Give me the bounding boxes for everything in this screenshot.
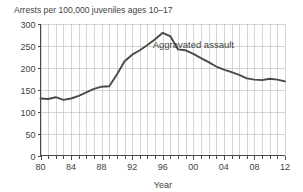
- x-tick-label: 92: [127, 162, 137, 172]
- chart-title: Arrests per 100,000 juveniles ages 10–17: [14, 5, 173, 15]
- x-tick-label: 88: [97, 162, 107, 172]
- x-tick-label: 08: [249, 162, 259, 172]
- x-tick-label: 84: [66, 162, 76, 172]
- x-axis-label: Year: [154, 180, 172, 190]
- x-tick-label: 96: [158, 162, 168, 172]
- y-tick-label: 0: [30, 152, 35, 162]
- y-tick-label: 250: [20, 42, 35, 52]
- y-tick-label: 300: [20, 20, 35, 30]
- y-axis-ticks: 050100150200250300: [20, 20, 40, 162]
- x-tick-label: 00: [188, 162, 198, 172]
- x-axis-ticks: 808488929600040812: [35, 156, 290, 172]
- y-tick-label: 200: [20, 64, 35, 74]
- y-tick-label: 100: [20, 108, 35, 118]
- x-tick-label: 12: [280, 162, 290, 172]
- x-tick-label: 80: [35, 162, 45, 172]
- x-tick-label: 04: [219, 162, 229, 172]
- chart-container: Arrests per 100,000 juveniles ages 10–17…: [0, 0, 303, 192]
- y-tick-label: 150: [20, 86, 35, 96]
- series-annotation-aggravated-assault: Aggravated assault: [153, 39, 235, 50]
- line-chart-figure: Arrests per 100,000 juveniles ages 10–17…: [0, 0, 303, 192]
- y-tick-label: 50: [25, 130, 35, 140]
